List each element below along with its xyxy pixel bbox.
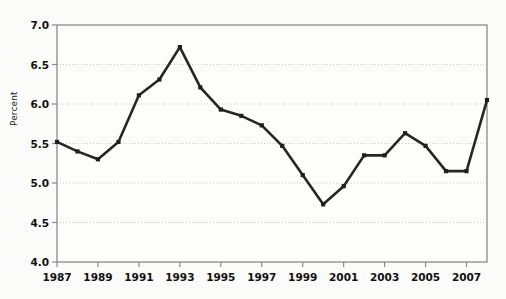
plot-area bbox=[0, 0, 506, 299]
x-axis-tick-label: 2007 bbox=[452, 271, 481, 283]
data-point-marker bbox=[444, 169, 448, 173]
x-axis-tick-label: 1987 bbox=[42, 271, 71, 283]
y-axis-tick-label: 6.0 bbox=[11, 98, 49, 110]
y-axis-tick-label: 4.0 bbox=[11, 256, 49, 268]
y-axis-tick-label: 6.5 bbox=[11, 59, 49, 71]
y-axis-tick-label: 4.5 bbox=[11, 217, 49, 229]
data-point-marker bbox=[403, 131, 407, 135]
data-point-marker bbox=[96, 157, 100, 161]
data-point-marker bbox=[219, 107, 223, 111]
x-axis-tick-label: 1999 bbox=[288, 271, 317, 283]
line-chart: Percent 7.06.56.05.55.04.54.0 1987198919… bbox=[0, 0, 506, 299]
data-point-marker bbox=[362, 153, 366, 157]
data-point-marker bbox=[485, 98, 489, 102]
data-point-marker bbox=[198, 85, 202, 89]
data-point-marker bbox=[280, 144, 284, 148]
data-point-marker bbox=[116, 140, 120, 144]
x-axis-tick-label: 2005 bbox=[411, 271, 440, 283]
data-point-marker bbox=[464, 169, 468, 173]
data-point-marker bbox=[55, 140, 59, 144]
data-point-marker bbox=[423, 144, 427, 148]
data-point-marker bbox=[75, 149, 79, 153]
data-point-marker bbox=[260, 123, 264, 127]
data-point-marker bbox=[383, 153, 387, 157]
data-point-marker bbox=[178, 45, 182, 49]
data-point-marker bbox=[321, 202, 325, 206]
y-axis-tick-label: 7.0 bbox=[11, 19, 49, 31]
x-axis-tick-label: 2003 bbox=[370, 271, 399, 283]
x-axis-tick-label: 1995 bbox=[206, 271, 235, 283]
data-point-marker bbox=[137, 93, 141, 97]
x-axis-tick-label: 1991 bbox=[124, 271, 153, 283]
data-point-marker bbox=[342, 184, 346, 188]
data-point-marker bbox=[157, 77, 161, 81]
data-point-marker bbox=[239, 114, 243, 118]
x-axis-ticks bbox=[57, 262, 467, 267]
x-axis-tick-label: 1993 bbox=[165, 271, 194, 283]
x-axis-tick-label: 1997 bbox=[247, 271, 276, 283]
x-axis-tick-label: 2001 bbox=[329, 271, 358, 283]
data-point-marker bbox=[301, 173, 305, 177]
x-axis-tick-label: 1989 bbox=[83, 271, 112, 283]
y-axis-tick-label: 5.5 bbox=[11, 138, 49, 150]
y-axis-tick-label: 5.0 bbox=[11, 177, 49, 189]
